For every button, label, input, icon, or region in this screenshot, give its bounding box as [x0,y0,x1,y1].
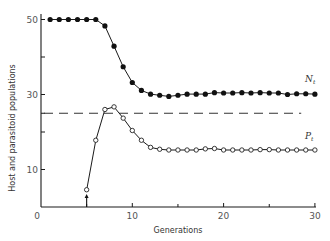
data-point [175,93,180,98]
series-label-pt: Pt [304,131,314,142]
series-layer [48,17,318,192]
data-point [231,148,235,152]
data-point [212,146,216,150]
data-point [66,17,71,22]
population-dynamics-chart: 0102030 103050 Generations Host and para… [0,0,330,241]
y-tick-label: 50 [27,15,39,25]
data-point [203,147,207,151]
data-point [194,148,198,152]
y-ticks: 103050 [27,15,45,175]
data-point [276,148,280,152]
data-point [221,90,226,95]
data-point [121,64,126,69]
data-point [303,91,308,96]
data-point [294,148,298,152]
data-point [239,90,244,95]
data-point [304,148,308,152]
data-point [312,92,317,97]
x-tick-label: 0 [34,211,40,221]
data-point [48,17,53,22]
data-point [57,17,62,22]
series-pt [84,105,317,192]
x-tick-label: 10 [127,211,139,221]
y-axis-title: Host and parasitoid populations [8,64,17,192]
data-point [157,93,162,98]
introduction-arrow-icon [85,194,89,207]
data-point [267,90,272,95]
data-point [111,44,116,49]
data-point [103,107,107,111]
data-point [249,148,253,152]
data-point [203,92,208,97]
data-point [258,147,262,151]
data-point [185,148,189,152]
data-point [248,90,253,95]
data-point [148,145,152,149]
data-point [276,90,281,95]
data-point [194,92,199,97]
data-point [139,138,143,142]
data-point [221,148,225,152]
data-point [176,148,180,152]
data-point [121,116,125,120]
x-ticks: 0102030 [34,203,321,221]
data-point [130,80,135,85]
data-point [102,23,107,28]
data-point [166,94,171,99]
series-label-nt: Nt [304,74,316,85]
data-point [84,17,89,22]
y-tick-label: 10 [27,165,39,175]
x-tick-label: 20 [218,211,230,221]
data-point [130,128,134,132]
data-point [148,92,153,97]
y-tick-label: 30 [27,90,39,100]
data-point [285,92,290,97]
data-point [184,92,189,97]
data-point [258,90,263,95]
data-point [139,88,144,93]
axes: 0102030 103050 [27,14,321,221]
data-point [157,147,161,151]
data-point [285,148,289,152]
data-point [75,17,80,22]
x-tick-label: 30 [309,211,321,221]
data-point [230,90,235,95]
x-axis-title: Generations [154,226,203,235]
data-point [84,188,88,192]
data-point [313,148,317,152]
series-line [50,20,315,97]
series-nt [48,17,318,99]
data-point [94,138,98,142]
data-point [240,148,244,152]
data-point [294,91,299,96]
data-point [212,90,217,95]
data-point [267,147,271,151]
data-point [112,105,116,109]
data-point [167,148,171,152]
data-point [93,17,98,22]
